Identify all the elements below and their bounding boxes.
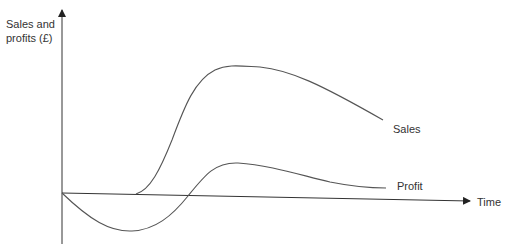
x-axis (62, 193, 470, 201)
x-axis-label: Time (477, 195, 501, 209)
sales-line (136, 66, 383, 194)
chart-canvas (0, 0, 506, 247)
y-axis-label: Sales and profits (£) (6, 17, 55, 45)
y-axis-label-line2: profits (£) (6, 31, 55, 45)
profit-series-label: Profit (397, 179, 423, 193)
profit-line (62, 163, 386, 231)
y-axis-label-line1: Sales and (6, 17, 55, 31)
sales-series-label: Sales (393, 122, 421, 136)
